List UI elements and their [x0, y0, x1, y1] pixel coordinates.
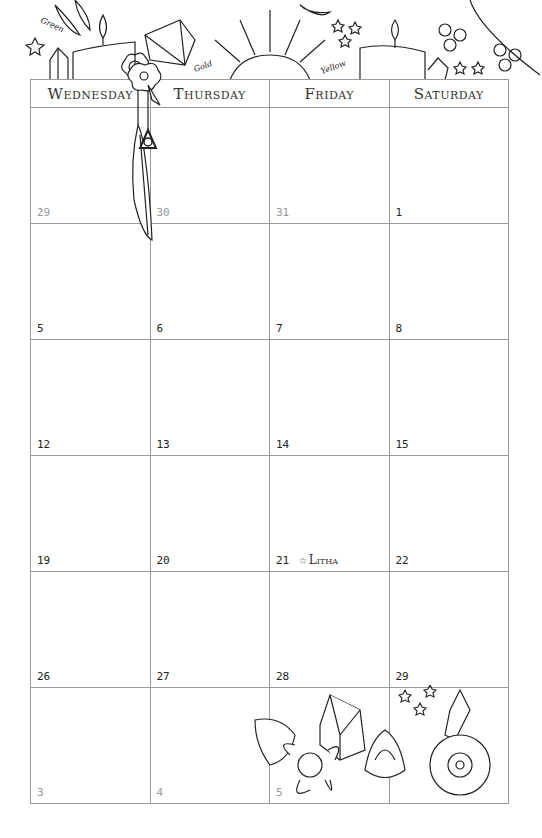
day-cell[interactable]: 15: [389, 340, 509, 455]
day-cell[interactable]: 29: [31, 108, 150, 223]
day-number: 1: [396, 206, 403, 219]
day-number: 21: [276, 554, 289, 567]
day-cell[interactable]: 22: [389, 456, 509, 571]
day-cell[interactable]: 6: [150, 224, 270, 339]
day-cell[interactable]: 4: [150, 688, 270, 803]
weekday-friday: Friday: [269, 80, 389, 107]
week-row: 12 13 14 15: [30, 339, 509, 455]
day-cell[interactable]: 26: [31, 572, 150, 687]
day-cell[interactable]: 1: [389, 108, 509, 223]
calendar-grid: Wednesday Thursday Friday Saturday 29 30…: [30, 79, 509, 804]
day-number: 14: [276, 438, 289, 451]
day-cell[interactable]: 30: [150, 108, 270, 223]
color-label-gold: Gold: [193, 59, 214, 74]
day-number: 20: [157, 554, 170, 567]
day-number: 27: [157, 670, 170, 683]
day-cell[interactable]: 28: [269, 572, 389, 687]
day-cell[interactable]: 3: [31, 688, 150, 803]
day-number: 15: [396, 438, 409, 451]
day-number: 19: [37, 554, 50, 567]
week-row: 29 30 31 1: [30, 107, 509, 223]
day-number: 3: [37, 786, 44, 799]
day-cell[interactable]: 27: [150, 572, 270, 687]
top-illustration: Green Gold Yellow: [0, 0, 542, 80]
color-label-green: Green: [39, 16, 65, 35]
holiday-label-litha: Litha: [309, 553, 338, 567]
day-cell[interactable]: 12: [31, 340, 150, 455]
day-cell[interactable]: 29: [389, 572, 509, 687]
day-cell[interactable]: 8: [389, 224, 509, 339]
day-cell[interactable]: 31: [269, 108, 389, 223]
day-cell[interactable]: 5: [269, 688, 389, 803]
week-row: 19 20 21 ☆Litha 22: [30, 455, 509, 571]
day-cell[interactable]: 14: [269, 340, 389, 455]
day-cell[interactable]: [389, 688, 509, 803]
day-cell[interactable]: 21 ☆Litha: [269, 456, 389, 571]
day-number: 29: [396, 670, 409, 683]
day-number: 6: [157, 322, 164, 335]
day-cell[interactable]: 20: [150, 456, 270, 571]
day-number: 30: [157, 206, 170, 219]
day-number: 29: [37, 206, 50, 219]
day-number: 31: [276, 206, 289, 219]
week-row: 26 27 28 29: [30, 571, 509, 687]
day-cell[interactable]: 19: [31, 456, 150, 571]
day-number: 28: [276, 670, 289, 683]
weekday-header: Wednesday Thursday Friday Saturday: [30, 79, 509, 107]
weekday-thursday: Thursday: [150, 80, 270, 107]
day-number: 26: [37, 670, 50, 683]
day-number: 22: [396, 554, 409, 567]
day-number: 12: [37, 438, 50, 451]
weekday-saturday: Saturday: [389, 80, 509, 107]
day-number: 4: [157, 786, 164, 799]
day-cell[interactable]: 5: [31, 224, 150, 339]
weekday-wednesday: Wednesday: [31, 80, 150, 107]
day-number: 7: [276, 322, 283, 335]
color-label-yellow: Yellow: [320, 58, 348, 75]
day-number-with-event: 21 ☆Litha: [276, 552, 338, 567]
day-number: 5: [276, 786, 283, 799]
week-row: 3 4 5: [30, 687, 509, 804]
week-row: 5 6 7 8: [30, 223, 509, 339]
day-number: 5: [37, 322, 44, 335]
star-icon: ☆: [299, 552, 307, 567]
day-cell[interactable]: 13: [150, 340, 270, 455]
day-number: 13: [157, 438, 170, 451]
day-number: 8: [396, 322, 403, 335]
day-cell[interactable]: 7: [269, 224, 389, 339]
